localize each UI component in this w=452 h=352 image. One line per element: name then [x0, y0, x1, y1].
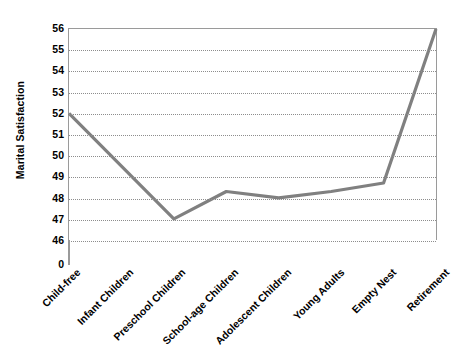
y-axis-tick-53: 53 — [52, 86, 64, 98]
gridline-54 — [69, 71, 436, 72]
gridline-51 — [69, 135, 436, 136]
y-axis-tick-52: 52 — [52, 107, 64, 119]
gridline-55 — [69, 50, 436, 51]
y-axis-title-text: Marital Satisfaction — [14, 81, 26, 179]
gridline-46 — [69, 241, 436, 242]
y-axis-tick-46: 46 — [52, 234, 64, 246]
x-axis-tick-child-free: Child-free — [39, 266, 82, 309]
x-axis-tick-empty-nest: Empty Nest — [349, 266, 398, 315]
y-axis-tick-labels: 56555453525150494847460 — [38, 0, 64, 270]
plot-area — [68, 28, 437, 240]
gridline-53 — [69, 93, 436, 94]
x-axis-tick-young-adults: Young Adults — [290, 266, 346, 322]
gridline-47 — [69, 220, 436, 221]
y-axis-tick-56: 56 — [52, 22, 64, 34]
y-axis-tick-48: 48 — [52, 192, 64, 204]
y-axis-title: Marital Satisfaction — [0, 0, 40, 260]
y-axis-lower-stub — [68, 240, 70, 265]
gridline-52 — [69, 114, 436, 115]
y-axis-tick-51: 51 — [52, 128, 64, 140]
gridline-49 — [69, 177, 436, 178]
y-axis-tick-50: 50 — [52, 149, 64, 161]
y-axis-tick-54: 54 — [52, 64, 64, 76]
y-axis-tick-47: 47 — [52, 213, 64, 225]
x-axis-tick-labels: Child-freeInfant ChildrenPreschool Child… — [0, 266, 450, 352]
series-polyline — [69, 29, 436, 219]
x-axis-tick-retirement: Retirement — [404, 266, 451, 313]
y-axis-tick-49: 49 — [52, 170, 64, 182]
gridline-48 — [69, 199, 436, 200]
gridline-50 — [69, 156, 436, 157]
y-axis-tick-55: 55 — [52, 43, 64, 55]
